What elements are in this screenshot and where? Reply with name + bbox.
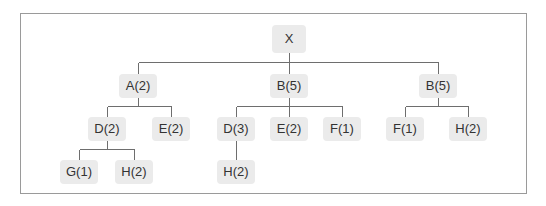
- node-b2-h[interactable]: H(2): [449, 117, 487, 141]
- node-a-e[interactable]: E(2): [152, 117, 190, 141]
- node-b-e[interactable]: E(2): [270, 117, 308, 141]
- node-b-middle[interactable]: B(5): [270, 74, 308, 98]
- node-b-d[interactable]: D(3): [217, 117, 255, 141]
- node-x[interactable]: X: [272, 25, 306, 53]
- node-b-d-h[interactable]: H(2): [217, 160, 255, 184]
- node-b-right[interactable]: B(5): [419, 74, 457, 98]
- node-b-f[interactable]: F(1): [323, 117, 361, 141]
- node-a-d[interactable]: D(2): [88, 117, 126, 141]
- node-a-d-g[interactable]: G(1): [60, 160, 98, 184]
- node-a-d-h[interactable]: H(2): [115, 160, 153, 184]
- node-b2-f[interactable]: F(1): [386, 117, 424, 141]
- node-a[interactable]: A(2): [119, 74, 157, 98]
